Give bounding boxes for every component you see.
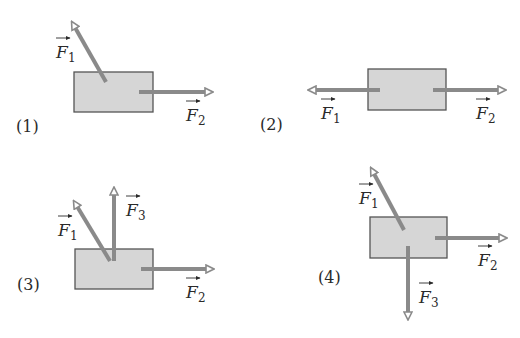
force-subscript: 2 [198, 114, 206, 128]
label-f2: F 2 [185, 101, 206, 128]
force-subscript: 2 [198, 291, 206, 305]
label-f1: F 1 [55, 38, 76, 65]
force-subscript: 1 [68, 51, 76, 65]
panel-label: (1) [16, 117, 39, 136]
force-name: F [57, 220, 71, 240]
panel-1: F 1 F 2 (1) [16, 24, 210, 136]
label-f2: F 2 [185, 278, 206, 305]
label-f1: F 1 [320, 99, 341, 126]
force-name: F [358, 188, 372, 208]
panel-3: F 1 F 3 F 2 (3) [17, 190, 211, 305]
force-subscript: 3 [138, 209, 146, 223]
label-f1: F 1 [358, 184, 379, 211]
panel-label: (3) [17, 275, 40, 294]
label-f3: F 3 [125, 196, 146, 223]
force-name: F [185, 282, 199, 302]
panel-label: (4) [318, 268, 341, 287]
label-f3: F 3 [418, 283, 439, 310]
force-subscript: 1 [371, 197, 379, 211]
force-name: F [320, 103, 334, 123]
force-diagrams: F 1 F 2 (1) F 1 F 2 (2) [0, 0, 520, 338]
label-f1: F 1 [57, 216, 78, 243]
force-name: F [418, 287, 432, 307]
force-subscript: 1 [333, 112, 341, 126]
panel-label: (2) [260, 115, 283, 134]
force-name: F [477, 250, 491, 270]
force-name: F [185, 105, 199, 125]
force-subscript: 2 [490, 259, 498, 273]
panel-2: F 1 F 2 (2) [260, 69, 503, 134]
panel-4: F 1 F 2 F 3 (4) [318, 170, 504, 317]
force-subscript: 1 [70, 229, 78, 243]
force-name: F [475, 103, 489, 123]
force-subscript: 2 [488, 112, 496, 126]
label-f2: F 2 [477, 246, 498, 273]
force-subscript: 3 [431, 296, 439, 310]
force-name: F [125, 200, 139, 220]
force-name: F [55, 42, 69, 62]
label-f2: F 2 [475, 99, 496, 126]
